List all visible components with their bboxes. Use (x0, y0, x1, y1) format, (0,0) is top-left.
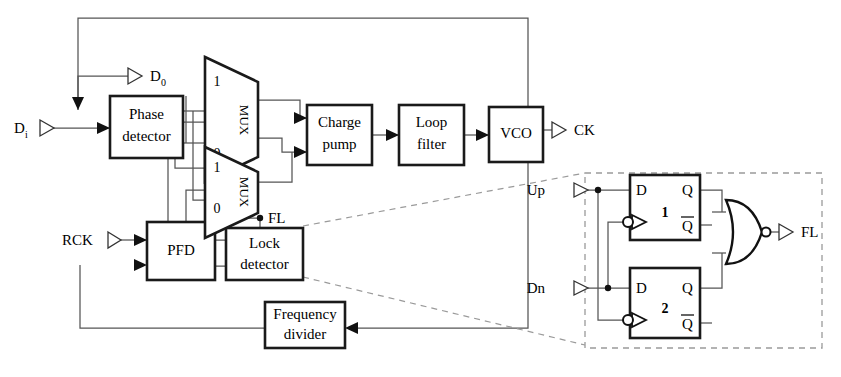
arrow-cp-in-bottom (294, 146, 307, 158)
phase-detector-label-1: Phase (129, 106, 164, 122)
junction-up (595, 187, 601, 193)
block-charge-pump[interactable]: Charge pump (307, 105, 372, 165)
wire-dn-to-ff1-clk (608, 222, 632, 288)
ff2-qbar-pin: Q (682, 316, 693, 332)
data-in-label: D (14, 120, 25, 136)
arrow-pfd-in-top (134, 234, 147, 246)
loop-filter-label-1: Loop (416, 114, 448, 130)
arrow-lf-in (386, 129, 399, 141)
inset-fl-label: FL (801, 224, 819, 240)
data-out-label: D (150, 68, 161, 84)
inset-output-fl[interactable]: FL (779, 224, 819, 240)
mux-top-sel-high: 1 (214, 74, 221, 89)
loop-filter-label-2: filter (417, 136, 446, 152)
lock-flag-label: FL (268, 210, 286, 226)
arrow-vco-in (476, 129, 489, 141)
port-clock-out[interactable]: CK (552, 122, 595, 138)
arrow-divider-in (345, 322, 358, 334)
mux-bottom-sel-low: 0 (214, 201, 221, 216)
vco-label: VCO (500, 125, 532, 141)
port-data-in[interactable]: D i (14, 120, 54, 140)
block-phase-detector[interactable]: Phase detector (110, 96, 183, 158)
block-vco[interactable]: VCO (489, 107, 543, 162)
mux-top-label: MUX (237, 105, 252, 136)
charge-pump-label-2: pump (322, 136, 356, 152)
flipflop-1[interactable]: D Q Q 1 (623, 175, 700, 240)
frequency-divider-label-1: Frequency (273, 306, 337, 322)
junction-dn (605, 285, 611, 291)
wire-pd-cross-to-mux2-low (193, 111, 205, 200)
data-in-subscript: i (25, 129, 28, 140)
inset-input-dn[interactable]: Dn (527, 280, 588, 296)
port-ref-clock[interactable]: RCK (62, 232, 121, 248)
mux-bottom-sel-high: 1 (214, 160, 221, 175)
block-lock-detector[interactable]: Lock detector (226, 228, 303, 280)
inset-input-up[interactable]: Up (527, 182, 588, 198)
up-label: Up (527, 182, 545, 198)
wire-up-to-ff2-clk (598, 190, 632, 320)
callout-line-top (303, 173, 585, 226)
mux-bottom-label: MUX (237, 177, 252, 208)
arrow-pd-top-in (72, 97, 84, 110)
frequency-divider-label-2: divider (284, 326, 327, 342)
circuit-diagram: Phase detector Charge pump Loop filter V… (0, 0, 841, 377)
ff1-number: 1 (662, 205, 669, 220)
flipflop-2[interactable]: D Q Q 2 (623, 268, 700, 338)
junction-fl (257, 215, 263, 221)
port-data-out[interactable]: D 0 (128, 68, 166, 88)
inset-boundary (585, 173, 822, 348)
phase-detector-label-2: detector (122, 128, 170, 144)
charge-pump-label-1: Charge (318, 114, 361, 130)
wire-mux2-to-charge-pump (258, 152, 292, 182)
wire-ff2-q-to-nor (700, 253, 722, 288)
nor-gate[interactable] (726, 200, 771, 264)
ff1-d-pin: D (636, 182, 647, 198)
lock-detector-label-2: detector (240, 256, 288, 272)
ff2-clock-bubble (623, 315, 633, 325)
dn-label: Dn (527, 280, 546, 296)
ff2-q-pin: Q (682, 280, 693, 296)
block-frequency-divider[interactable]: Frequency divider (265, 302, 345, 348)
arrow-pfd-in-bottom (134, 259, 147, 271)
wire-ff1-q-to-nor (700, 190, 722, 212)
ff1-qbar-pin: Q (682, 218, 693, 234)
nor-gate-body (726, 200, 762, 264)
nor-gate-bubble (762, 228, 771, 237)
pfd-label: PFD (167, 242, 195, 258)
block-loop-filter[interactable]: Loop filter (399, 105, 464, 165)
ref-clock-label: RCK (62, 232, 93, 248)
mux-layer: 1 0 MUX 1 0 MUX (205, 57, 258, 238)
ff2-number: 2 (662, 301, 669, 316)
ff1-q-pin: Q (682, 182, 693, 198)
ff1-clock-bubble (623, 217, 633, 227)
lock-detector-label-1: Lock (249, 235, 280, 251)
arrow-di-in (97, 122, 110, 134)
data-out-subscript: 0 (161, 77, 166, 88)
lock-detector-inset: Up Dn D Q Q 1 D Q Q 2 (527, 173, 822, 348)
diagram-canvas: Phase detector Charge pump Loop filter V… (0, 0, 841, 377)
clock-out-label: CK (574, 122, 595, 138)
ff2-d-pin: D (636, 280, 647, 296)
